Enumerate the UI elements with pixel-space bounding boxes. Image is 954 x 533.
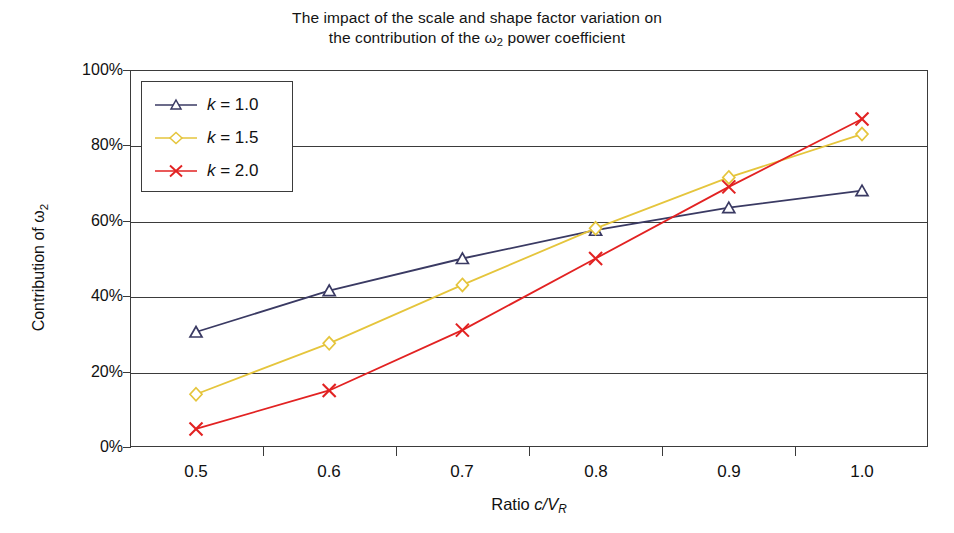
y-axis-title-pre: Contribution of — [30, 223, 47, 332]
y-axis-omega-subscript: 2 — [38, 204, 50, 210]
y-axis-omega-symbol: ω — [30, 210, 47, 223]
y-tick-label-100: 100% — [55, 61, 123, 79]
x-axis-title-c: c — [534, 495, 542, 513]
x-tick-label-5: 1.0 — [827, 462, 897, 482]
legend-label-k-2-0: k = 2.0 — [207, 161, 259, 181]
y-tick-label-20: 20% — [55, 363, 123, 381]
chart-title-line-2-pre: the contribution of the — [329, 29, 485, 46]
y-axis-tick-labels: 100% 80% 60% 40% 20% 0% — [55, 0, 123, 533]
legend-k-value-3: = 2.0 — [216, 161, 259, 180]
gridline-60 — [131, 222, 927, 223]
legend-swatch-diamond-icon — [154, 130, 198, 146]
legend-k-value-1: = 1.0 — [216, 95, 259, 114]
chart-title: The impact of the scale and shape factor… — [0, 8, 954, 52]
x-axis-title-pre: Ratio — [491, 495, 534, 513]
y-tick-label-40: 40% — [55, 287, 123, 305]
legend-label-k-1-0: k = 1.0 — [207, 95, 259, 115]
y-tick-label-60: 60% — [55, 212, 123, 230]
legend-swatch-triangle-icon — [154, 97, 198, 113]
x-axis-title-v: V — [547, 495, 558, 513]
x-axis-title: Ratio c/VR — [130, 495, 928, 516]
x-tick-mark-1 — [263, 447, 264, 456]
omega-symbol: ω — [485, 29, 497, 46]
chart-title-line-2-post: power coefficient — [503, 29, 625, 46]
x-tick-label-3: 0.8 — [561, 462, 631, 482]
legend-item-k-1-5[interactable]: k = 1.5 — [142, 121, 292, 154]
legend-k-value-2: = 1.5 — [216, 128, 259, 147]
y-axis-title: Contribution of ω2 — [30, 88, 49, 448]
y-tick-label-80: 80% — [55, 136, 123, 154]
x-axis-title-v-subscript: R — [558, 502, 567, 516]
x-tick-mark-3 — [529, 447, 530, 456]
legend-item-k-1-0[interactable]: k = 1.0 — [142, 88, 292, 121]
chart-title-line-2: the contribution of the ω2 power coeffic… — [0, 28, 954, 52]
chart-title-line-1: The impact of the scale and shape factor… — [0, 8, 954, 28]
x-tick-mark-5 — [795, 447, 796, 456]
x-tick-label-0: 0.5 — [161, 462, 231, 482]
x-tick-label-4: 0.9 — [694, 462, 764, 482]
x-tick-mark-2 — [396, 447, 397, 456]
y-tick-label-0: 0% — [55, 438, 123, 456]
chart-legend: k = 1.0 k = 1.5 k = 2.0 — [141, 81, 293, 192]
legend-item-k-2-0[interactable]: k = 2.0 — [142, 154, 292, 187]
legend-k-symbol-2: k — [207, 128, 216, 147]
chart-figure: The impact of the scale and shape factor… — [0, 0, 954, 533]
legend-k-symbol-3: k — [207, 161, 216, 180]
legend-label-k-1-5: k = 1.5 — [207, 128, 259, 148]
legend-swatch-x-icon — [154, 163, 198, 179]
gridline-20 — [131, 373, 927, 374]
x-tick-label-1: 0.6 — [294, 462, 364, 482]
legend-k-symbol-1: k — [207, 95, 216, 114]
x-tick-mark-4 — [662, 447, 663, 456]
gridline-40 — [131, 297, 927, 298]
x-tick-label-2: 0.7 — [427, 462, 497, 482]
y-tick-mark-0 — [123, 447, 131, 448]
